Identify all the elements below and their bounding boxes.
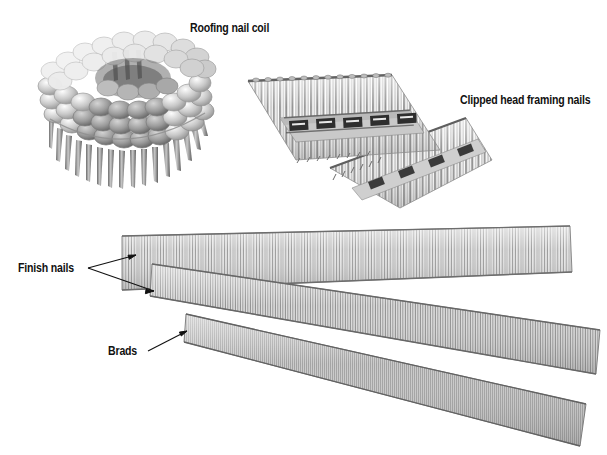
clipped-head-framing-nails-graphic — [248, 73, 492, 208]
label-finish-nails: Finish nails — [18, 262, 74, 274]
finish-nails-and-brads-graphic — [122, 226, 600, 446]
label-clipped-head-framing-nails: Clipped head framing nails — [460, 94, 590, 106]
roofing-nail-coil-graphic — [38, 31, 216, 189]
nail-illustration-artwork — [0, 0, 607, 455]
leader-brads — [148, 331, 187, 351]
nail-types-figure: Roofing nail coil Clipped head framing n… — [0, 0, 607, 455]
framing-strip-upper — [248, 73, 440, 163]
label-roofing-nail-coil: Roofing nail coil — [190, 22, 269, 34]
label-brads: Brads — [108, 345, 137, 357]
